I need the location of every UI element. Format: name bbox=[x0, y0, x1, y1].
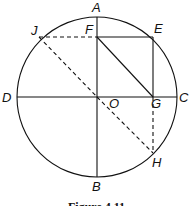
label-A: A bbox=[91, 0, 101, 15]
figure-caption: Figure 4.11 bbox=[68, 200, 125, 206]
label-E: E bbox=[154, 21, 163, 36]
label-O: O bbox=[109, 96, 119, 111]
label-H: H bbox=[152, 155, 162, 170]
label-G: G bbox=[151, 96, 161, 111]
label-C: C bbox=[179, 90, 189, 105]
label-B: B bbox=[92, 179, 101, 194]
geometry-diagram: A B C D O E F G H J Figure 4.11 bbox=[0, 0, 191, 206]
segment-OH bbox=[97, 97, 153, 153]
segment-FG bbox=[97, 37, 153, 97]
label-J: J bbox=[30, 23, 38, 38]
label-F: F bbox=[85, 22, 94, 37]
label-D: D bbox=[2, 90, 11, 105]
segment-JO bbox=[39, 37, 97, 97]
